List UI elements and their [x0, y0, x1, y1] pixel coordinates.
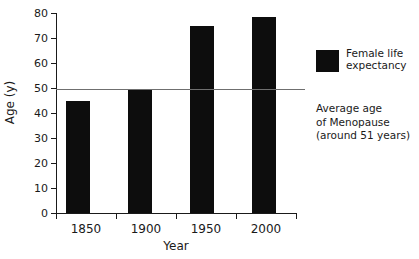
legend-entry-label: Female life expectancy	[346, 47, 419, 71]
bar-2000[interactable]	[252, 17, 276, 214]
y-tick-label-30: 30	[2, 133, 48, 144]
legend-note-line-3: (around 51 years)	[316, 129, 419, 143]
y-tick-wrap-10: 10	[0, 183, 48, 194]
plot-area	[56, 14, 296, 213]
legend-note-menopause: Average age of Menopause (around 51 year…	[316, 102, 419, 143]
legend-entry-female-life-expectancy[interactable]: Female life expectancy	[316, 46, 419, 74]
y-tick-wrap-20: 20	[0, 158, 48, 169]
bar-1900[interactable]	[128, 89, 152, 213]
legend-label-line-1: Female life	[346, 47, 419, 59]
y-tick-wrap-60: 60	[0, 58, 48, 69]
y-tick-label-60: 60	[2, 58, 48, 69]
y-tick-label-70: 70	[2, 33, 48, 44]
y-tick-label-10: 10	[2, 183, 48, 194]
bar-1950[interactable]	[190, 26, 214, 213]
x-axis-title: Year	[56, 240, 296, 253]
y-axis-title: Age (y)	[4, 73, 17, 133]
legend-note-line-1: Average age	[316, 102, 419, 116]
x-tick-mark-4	[296, 214, 297, 219]
x-tick-mark-1	[116, 214, 117, 219]
y-tick-wrap-30: 30	[0, 133, 48, 144]
x-tick-label-2000: 2000	[236, 223, 296, 236]
y-tick-label-0: 0	[2, 208, 48, 219]
x-tick-mark-0	[56, 214, 57, 219]
chart-legend: Female life expectancy Average age of Me…	[316, 46, 419, 74]
x-tick-label-1900: 1900	[116, 223, 176, 236]
x-tick-label-1950: 1950	[176, 223, 236, 236]
y-tick-wrap-0: 0	[0, 208, 48, 219]
legend-label-line-2: expectancy	[346, 59, 419, 71]
legend-swatch-icon	[316, 50, 339, 72]
x-tick-mark-3	[236, 214, 237, 219]
y-tick-wrap-80: 80	[0, 8, 48, 19]
bar-chart-figure: 80 70 60 50 40 30 20 10 0 1850 1900 1950…	[0, 0, 419, 259]
legend-note-line-2: of Menopause	[316, 116, 419, 130]
menopause-reference-line	[56, 89, 305, 90]
bar-1850[interactable]	[66, 101, 90, 213]
x-tick-label-1850: 1850	[56, 223, 116, 236]
y-tick-label-80: 80	[2, 8, 48, 19]
x-tick-mark-2	[176, 214, 177, 219]
y-tick-label-20: 20	[2, 158, 48, 169]
y-tick-wrap-70: 70	[0, 33, 48, 44]
